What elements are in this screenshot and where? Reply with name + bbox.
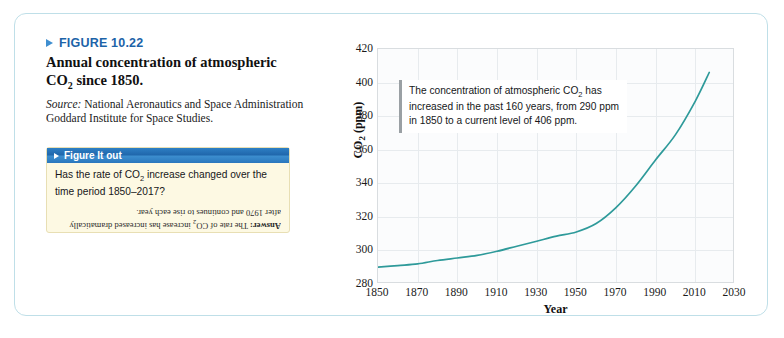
white-triangle-icon xyxy=(54,153,59,159)
figure-title: Annual concentration of atmospheric CO2 … xyxy=(46,54,314,92)
x-tick-label: 1890 xyxy=(445,286,468,298)
y-tick-label: 380 xyxy=(356,109,373,121)
figure-it-out-title: Figure It out xyxy=(64,150,122,161)
y-tick-label: 360 xyxy=(356,143,373,155)
y-tick-label: 340 xyxy=(356,176,373,188)
figure-number-row: FIGURE 10.22 xyxy=(46,36,314,50)
x-tick-label: 1910 xyxy=(485,286,508,298)
y-tick-label: 420 xyxy=(356,42,373,54)
figure-title-line1: Annual concentration of atmospheric xyxy=(46,54,277,70)
x-tick-label: 1850 xyxy=(366,286,389,298)
answer-label: Answer: xyxy=(250,221,281,231)
figure-caption-column: FIGURE 10.22 Annual concentration of atm… xyxy=(46,36,314,126)
figure-it-out-question: Has the rate of CO2 increase changed ove… xyxy=(47,163,289,201)
figure-source: Source: National Aeronautics and Space A… xyxy=(46,97,314,126)
y-tick-label: 320 xyxy=(356,210,373,222)
y-tick-label: 400 xyxy=(356,76,373,88)
answer-subscript: 2 xyxy=(193,219,196,226)
y-tick-label: 300 xyxy=(356,243,373,255)
x-axis-ticks: 1850187018901910193019501970199020102030 xyxy=(377,286,734,302)
figure-title-line2-pre: CO xyxy=(46,72,68,88)
answer-text-pre: The rate of CO xyxy=(196,221,250,231)
figure-source-text: National Aeronautics and Space Administr… xyxy=(46,98,303,125)
x-tick-label: 1870 xyxy=(405,286,428,298)
figure-it-out-answer-upside-down: Answer: The rate of CO2 increase has inc… xyxy=(47,201,289,232)
x-tick-label: 1930 xyxy=(524,286,547,298)
x-tick-label: 1970 xyxy=(604,286,627,298)
y-axis-ticks: 280300320340360380400420 xyxy=(325,34,373,284)
blue-triangle-icon xyxy=(46,39,53,47)
figure-it-out-header: Figure It out xyxy=(47,148,289,163)
figure-title-line2-post: since 1850. xyxy=(73,72,143,88)
chart-annotation-callout: The concentration of atmospheric CO2 has… xyxy=(399,80,627,133)
figure-it-out-box: Figure It out Has the rate of CO2 increa… xyxy=(46,147,290,233)
x-tick-label: 2010 xyxy=(683,286,706,298)
x-tick-label: 2030 xyxy=(723,286,746,298)
chart-container: CO2 (ppm) 280300320340360380400420 18501… xyxy=(325,34,770,319)
annotation-text-pre: The concentration of atmospheric CO xyxy=(409,85,578,96)
x-tick-label: 1990 xyxy=(643,286,666,298)
figure-source-label: Source: xyxy=(46,98,81,110)
x-axis-label: Year xyxy=(377,302,734,317)
question-text-pre: Has the rate of CO xyxy=(55,169,140,180)
figure-frame: FIGURE 10.22 Annual concentration of atm… xyxy=(14,13,768,316)
figure-number-label: FIGURE 10.22 xyxy=(59,36,143,50)
x-tick-label: 1950 xyxy=(564,286,587,298)
